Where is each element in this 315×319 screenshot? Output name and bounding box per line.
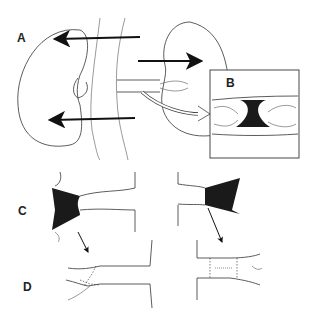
left-kidney [18,30,88,147]
panel-c-left [52,172,135,242]
ureter-lines [91,18,160,160]
panel-c-right [178,172,240,226]
arrow-c-to-d-right [208,208,222,242]
arrow-lower-left [52,118,135,120]
panel-d-right [197,240,262,300]
arrow-upper-left [57,37,140,39]
hollow-arrow-to-inset [142,92,205,114]
panel-label-b: B [226,76,235,90]
panel-label-a: A [17,31,26,45]
panel-label-c: C [18,204,27,218]
arrow-c-to-d-left [78,232,88,252]
inset-b: B [210,70,299,158]
panel-d-left [66,240,152,308]
medical-diagram: A B C [0,0,315,319]
panel-label-d: D [23,280,32,294]
